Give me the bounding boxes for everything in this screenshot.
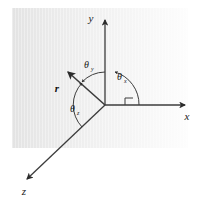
vector-direction-angles-figure: y x z r θ y θ x θ z <box>0 0 205 207</box>
theta-y-subscript: y <box>90 66 94 72</box>
theta-x-subscript: x <box>123 78 127 84</box>
y-axis-label: y <box>88 12 94 24</box>
theta-x-symbol: θ <box>117 71 122 82</box>
z-axis-label: z <box>21 185 27 197</box>
theta-y-symbol: θ <box>84 59 89 70</box>
position-vector-label: r <box>55 82 60 94</box>
figure-canvas: y x z r θ y θ x θ z <box>0 0 205 207</box>
theta-z-symbol: θ <box>70 103 75 114</box>
panel-texture-overlay <box>12 8 188 148</box>
x-axis-label: x <box>184 110 190 122</box>
